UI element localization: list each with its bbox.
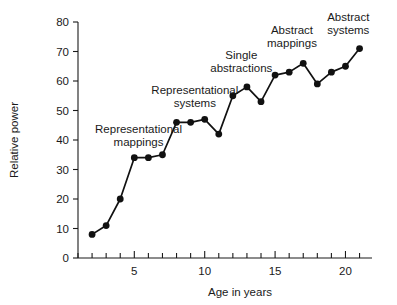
tick-labels: 010203040506070805101520 xyxy=(56,16,352,277)
x-tick-label: 10 xyxy=(198,265,211,277)
data-point xyxy=(272,72,279,79)
y-tick-label: 80 xyxy=(56,16,69,28)
annotation-label: systems xyxy=(327,24,369,36)
y-tick-label: 20 xyxy=(56,193,69,205)
y-tick-label: 40 xyxy=(56,134,69,146)
x-axis-title: Age in years xyxy=(208,286,272,298)
data-point xyxy=(117,196,124,203)
y-tick-label: 60 xyxy=(56,75,69,87)
y-tick-label: 10 xyxy=(56,223,69,235)
y-tick-label: 0 xyxy=(63,252,69,264)
data-point xyxy=(356,45,363,52)
data-point xyxy=(89,231,96,238)
y-axis-title: Relative power xyxy=(8,102,20,178)
chart-container: 010203040506070805101520 Representationa… xyxy=(0,0,397,305)
stage-annotations: RepresentationalmappingsRepresentational… xyxy=(95,11,370,148)
annotation-label: Representational xyxy=(151,84,238,96)
data-point xyxy=(300,60,307,67)
annotation-label: Single xyxy=(225,49,257,61)
x-tick-label: 15 xyxy=(269,265,282,277)
data-point xyxy=(328,69,335,76)
data-point xyxy=(244,84,251,91)
data-point xyxy=(201,116,208,123)
data-point xyxy=(258,98,265,105)
line-chart: 010203040506070805101520 Representationa… xyxy=(0,0,397,305)
data-point xyxy=(215,131,222,138)
x-tick-label: 20 xyxy=(339,265,352,277)
data-point xyxy=(131,154,138,161)
annotation-label: systems xyxy=(174,97,216,109)
data-point xyxy=(342,63,349,70)
annotation-label: Abstract xyxy=(327,11,370,23)
data-point xyxy=(103,222,110,229)
data-point xyxy=(159,151,166,158)
annotation-label: Abstract xyxy=(271,24,314,36)
y-tick-label: 30 xyxy=(56,164,69,176)
annotation-label: Representational xyxy=(95,123,182,135)
data-point xyxy=(286,69,293,76)
data-point xyxy=(187,119,194,126)
annotation-label: mappings xyxy=(267,37,317,49)
data-point xyxy=(314,81,321,88)
y-tick-label: 50 xyxy=(56,105,69,117)
x-tick-label: 5 xyxy=(131,265,137,277)
annotation-label: abstractions xyxy=(210,62,272,74)
y-tick-label: 70 xyxy=(56,46,69,58)
data-point xyxy=(145,154,152,161)
annotation-label: mappings xyxy=(114,136,164,148)
